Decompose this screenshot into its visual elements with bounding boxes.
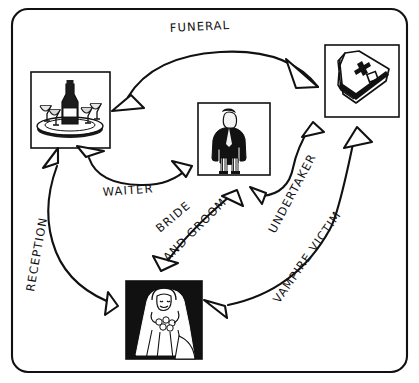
- diagram-page: · ·· · ·· · · ·· · ·· · ··· ··: [0, 0, 419, 383]
- node-bride[interactable]: [126, 281, 202, 359]
- vampire-victim-arrowhead-coffin: [344, 127, 372, 148]
- edge-label-funeral: FUNERAL: [169, 18, 230, 35]
- edge-funeral[interactable]: FUNERAL: [112, 18, 318, 111]
- reception-arrowhead-bottom: [105, 292, 118, 315]
- vampire-victim-arrowhead-bride: [204, 300, 227, 318]
- node-drinks-tray[interactable]: [31, 72, 110, 148]
- diagram-canvas: FUNERAL WAITER RECEPTION BRIDE AND GROOM: [0, 0, 419, 383]
- edge-reception[interactable]: RECEPTION: [23, 148, 118, 315]
- waiter-arrowhead-right: [172, 161, 192, 177]
- undertaker-arrowhead-coffin: [302, 122, 324, 137]
- edge-label-waiter: WAITER: [102, 181, 154, 199]
- undertaker-arrowhead-start: [250, 187, 266, 204]
- edge-waiter[interactable]: WAITER: [77, 146, 192, 199]
- edge-label-reception: RECEPTION: [23, 216, 50, 293]
- edge-bride-and-groom[interactable]: BRIDE AND GROOM: [153, 190, 243, 271]
- edge-label-and-groom: AND GROOM: [160, 195, 229, 264]
- node-coffin[interactable]: [325, 45, 399, 117]
- funeral-arrowhead-right: [286, 59, 318, 88]
- reception-arrowhead-top: [43, 148, 58, 168]
- funeral-arrowhead-left: [112, 95, 144, 111]
- node-undertaker[interactable]: [198, 103, 270, 175]
- funeral-arc: [128, 52, 318, 97]
